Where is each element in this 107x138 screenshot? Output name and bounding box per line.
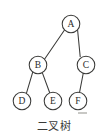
tree-node-f[interactable]: F [69, 92, 87, 110]
tree-edge-a-b [45, 30, 65, 59]
tree-node-label-f: F [75, 96, 80, 106]
tree-node-c[interactable]: C [77, 56, 95, 74]
tree-node-b[interactable]: B [29, 56, 47, 74]
tree-diagram-canvas: ABCDEF 二叉树 [0, 0, 107, 138]
tree-node-label-c: C [83, 60, 89, 70]
scan-artifact-speck [78, 112, 87, 114]
tree-node-label-d: D [19, 96, 26, 106]
tree-node-label-a: A [68, 19, 75, 29]
tree-node-a[interactable]: A [62, 15, 80, 33]
tree-edge-b-e [42, 72, 50, 93]
tree-nodes-group: ABCDEF [13, 15, 95, 110]
tree-edge-a-c [78, 30, 81, 57]
tree-node-d[interactable]: D [13, 92, 31, 110]
figure-caption: 二叉树 [37, 119, 72, 133]
tree-edge-b-d [26, 72, 32, 94]
tree-node-label-e: E [50, 96, 56, 106]
tree-edge-c-f [80, 74, 84, 93]
tree-node-label-b: B [35, 60, 41, 70]
binary-tree-figure: ABCDEF 二叉树 [0, 0, 107, 138]
tree-node-e[interactable]: E [44, 92, 62, 110]
